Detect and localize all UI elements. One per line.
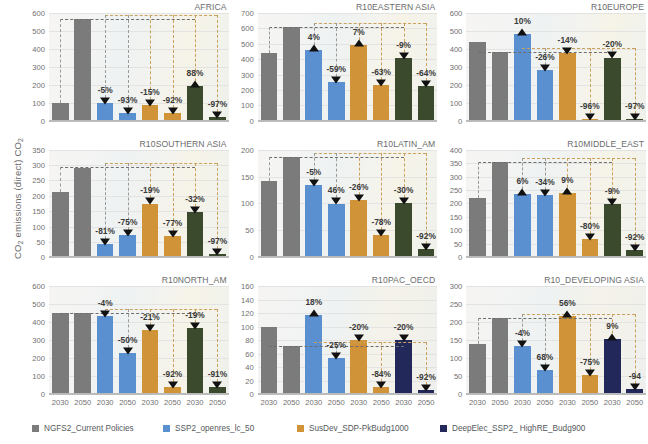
y-tick-label: 300 xyxy=(450,62,463,71)
change-label: 7% xyxy=(353,27,365,37)
y-tick-label: 100 xyxy=(450,226,463,235)
x-tick-label: 2050 xyxy=(492,398,509,407)
bar xyxy=(328,82,345,121)
x-axis-ticks xyxy=(49,122,229,139)
y-tick-label: 600 xyxy=(241,24,254,33)
x-tick-label: 2050 xyxy=(581,398,598,407)
bar xyxy=(514,346,531,394)
x-tick-label: 2030 xyxy=(395,398,412,407)
change-label: -25% xyxy=(326,340,346,350)
change-marker xyxy=(190,206,200,213)
bar xyxy=(187,212,204,258)
change-marker xyxy=(517,189,527,196)
x-axis-line xyxy=(49,120,229,121)
bar xyxy=(559,316,576,394)
x-tick-label: 2030 xyxy=(559,398,576,407)
bar xyxy=(261,181,278,257)
chart-panel: AFRICA0100200300400500600-5%-93%-15%-92%… xyxy=(22,2,231,139)
bar xyxy=(52,313,69,394)
bar xyxy=(328,204,345,258)
bar xyxy=(469,344,486,394)
bar-group: 4%-59%7%-63%-9%-64% xyxy=(258,13,438,121)
reference-line-upper xyxy=(105,15,217,16)
panel-title: R10_DEVELOPING ASIA xyxy=(544,275,644,285)
y-tick-label: 0 xyxy=(249,253,253,262)
y-tick-label: 200 xyxy=(241,145,254,154)
change-label: -78% xyxy=(371,217,391,227)
change-label: -64% xyxy=(416,68,436,78)
change-label: 18% xyxy=(305,297,322,307)
y-tick-label: 150 xyxy=(32,207,45,216)
legend-item[interactable]: SSP2_openres_lc_50 xyxy=(163,424,254,433)
x-axis-line xyxy=(466,393,646,394)
change-label: 56% xyxy=(559,298,576,308)
x-axis-ticks xyxy=(466,122,646,139)
x-axis-line xyxy=(466,256,646,257)
change-label: 9% xyxy=(561,175,573,185)
x-tick-label: 2050 xyxy=(119,398,136,407)
change-marker xyxy=(123,107,133,114)
change-label: -26% xyxy=(535,52,555,62)
change-marker xyxy=(607,334,617,341)
x-axis-line xyxy=(258,256,438,257)
change-marker xyxy=(331,352,341,359)
x-tick-label: 2030 xyxy=(305,398,322,407)
x-tick-label: 2050 xyxy=(74,398,91,407)
legend-item[interactable]: SusDev_SDP-PkBudg1000 xyxy=(297,424,409,433)
plot-area: -4%68%56%-75%9%-94 xyxy=(466,286,646,394)
x-axis-line xyxy=(258,120,438,121)
change-marker xyxy=(562,311,572,318)
change-label: 6% xyxy=(516,176,528,186)
legend-label: SusDev_SDP-PkBudg1000 xyxy=(309,424,409,433)
x-tick-label: 2030 xyxy=(52,398,69,407)
x-tick-label: 2050 xyxy=(418,398,435,407)
change-label: -5% xyxy=(98,85,113,95)
bar xyxy=(164,236,181,257)
change-marker xyxy=(421,244,431,251)
bar xyxy=(395,58,412,120)
legend-item[interactable]: DeepElec_SSP2_ HighRE_Budg900 xyxy=(440,424,585,433)
y-tick-label: 100 xyxy=(32,222,45,231)
change-label: -19% xyxy=(140,185,160,195)
y-tick-label: 400 xyxy=(32,318,45,327)
plot-wrapper: 0100200300400500600-4%-50%-21%-92%-19%-9… xyxy=(22,286,229,412)
plot-area: -81%-75%-19%-77%-32%-97% xyxy=(49,150,229,258)
plot-area: 6%-34%9%-80%-9%-92% xyxy=(466,150,646,258)
y-tick-label: 20 xyxy=(245,376,253,385)
legend-item[interactable]: NGFS2_Current Policies xyxy=(32,424,134,433)
connector-line xyxy=(336,153,337,204)
bar xyxy=(52,192,69,258)
y-axis-ticks: 050100150200250300 xyxy=(439,286,465,412)
change-marker xyxy=(212,381,222,388)
panel-title: R10NORTH_AM xyxy=(162,275,227,285)
y-tick-label: 350 xyxy=(32,145,45,154)
y-tick-label: 300 xyxy=(450,282,463,291)
bar xyxy=(97,103,114,121)
change-label: -80% xyxy=(580,221,600,231)
bar xyxy=(142,330,159,394)
bar xyxy=(604,204,621,258)
change-marker xyxy=(145,99,155,106)
bar xyxy=(328,358,345,394)
change-marker xyxy=(100,239,110,246)
change-marker xyxy=(585,233,595,240)
change-marker xyxy=(421,81,431,88)
bar-group: -4%68%56%-75%9%-94 xyxy=(466,286,646,394)
x-axis-ticks: 20302050203020502030205020302050 xyxy=(49,395,229,412)
reference-line-upper xyxy=(522,158,634,159)
change-marker xyxy=(168,231,178,238)
x-tick-label: 2030 xyxy=(187,398,204,407)
bar xyxy=(52,103,69,121)
y-tick-label: 120 xyxy=(241,309,254,318)
x-tick-label: 2050 xyxy=(164,398,181,407)
legend-label: SSP2_openres_lc_50 xyxy=(175,424,254,433)
bar xyxy=(604,58,621,121)
y-tick-label: 400 xyxy=(450,145,463,154)
y-tick-label: 500 xyxy=(450,26,463,35)
legend-swatch xyxy=(297,425,304,432)
y-tick-label: 0 xyxy=(41,116,45,125)
legend-swatch xyxy=(440,425,447,432)
reference-line-upper xyxy=(522,314,634,315)
change-marker xyxy=(354,335,364,342)
bar xyxy=(187,86,204,120)
